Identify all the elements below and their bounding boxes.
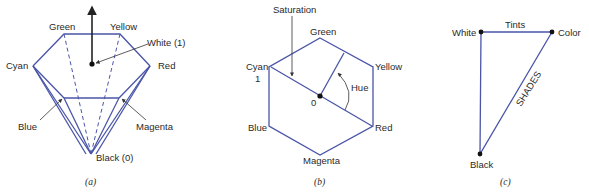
tints-shades-triangle	[480, 32, 552, 154]
label-color: Color	[558, 27, 581, 38]
label-cyan: Cyan	[6, 60, 28, 71]
black-point	[478, 152, 483, 157]
label-white: White (1)	[147, 37, 186, 48]
label-yellow: Yellow	[375, 61, 402, 72]
label-black: Black	[470, 159, 493, 170]
figure-b-hexagon: Saturation Green Cyan 1 Yellow Hue 0 Blu…	[246, 4, 402, 188]
label-red: Red	[375, 122, 392, 133]
label-magenta: Magenta	[303, 155, 341, 166]
origin-point	[317, 93, 322, 98]
label-white: White	[452, 27, 476, 38]
figure-c-triangle: White Tints Color SHADES Black (c)	[452, 19, 581, 188]
label-tints: Tints	[505, 19, 525, 30]
label-hue: Hue	[351, 82, 368, 93]
color-models-diagram: Green Yellow White (1) Cyan Red Blue Mag…	[0, 0, 589, 195]
caption-a: (a)	[85, 177, 96, 188]
label-cyan: Cyan	[246, 61, 268, 72]
hue-arc	[338, 73, 349, 110]
caption-c: (c)	[500, 177, 511, 188]
label-origin: 0	[311, 97, 316, 108]
label-blue: Blue	[18, 121, 37, 132]
label-saturation: Saturation	[273, 4, 316, 15]
white-point	[89, 61, 94, 66]
label-green: Green	[310, 26, 336, 37]
color-point	[550, 30, 555, 35]
figure-a-hexcone: Green Yellow White (1) Cyan Red Blue Mag…	[6, 7, 186, 188]
white-point	[479, 30, 484, 35]
label-magenta: Magenta	[136, 121, 174, 132]
label-red: Red	[158, 60, 175, 71]
label-blue: Blue	[248, 122, 267, 133]
hue-radius	[320, 53, 344, 96]
caption-b: (b)	[314, 177, 325, 188]
label-black: Black (0)	[96, 152, 133, 163]
label-yellow: Yellow	[110, 21, 137, 32]
label-green: Green	[49, 21, 75, 32]
label-cyan-value: 1	[255, 73, 260, 84]
